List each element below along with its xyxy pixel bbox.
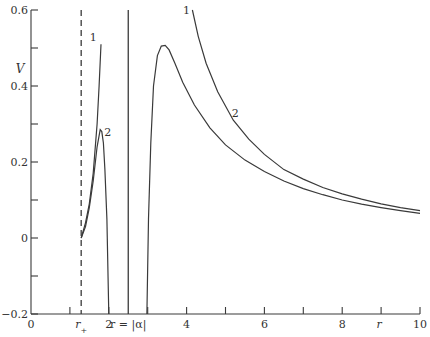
curve-label-1: 1: [183, 4, 190, 17]
curve-label-1: 1: [90, 31, 97, 44]
y-axis-title: V: [16, 62, 26, 76]
axes: −0.200.20.40.60r+2r = |α|468r10: [1, 4, 427, 335]
y-tick-label: 0.6: [11, 4, 29, 17]
x-tick-label: 6: [261, 318, 268, 331]
x-tick-label: 4: [183, 318, 190, 331]
x-tick-label: r+: [75, 318, 87, 335]
curves: [81, 10, 420, 314]
y-tick-label: −0.2: [1, 308, 28, 321]
x-tick-label: 8: [339, 318, 346, 331]
x-tick-label: r: [377, 318, 383, 331]
x-tick-label: 10: [413, 318, 427, 331]
curve-1: [192, 10, 420, 211]
curve-2: [147, 45, 420, 314]
y-tick-label: 0.2: [11, 156, 29, 169]
potential-chart: −0.200.20.40.60r+2r = |α|468r10 V1212: [0, 0, 430, 337]
y-tick-label: 0: [21, 232, 28, 245]
x-tick-label: r = |α|: [110, 318, 146, 332]
curve-label-2: 2: [232, 107, 239, 120]
labels: V1212: [16, 4, 239, 139]
curve-label-2: 2: [104, 126, 111, 139]
y-tick-label: 0.4: [11, 80, 29, 93]
x-tick-label: 0: [28, 318, 35, 331]
